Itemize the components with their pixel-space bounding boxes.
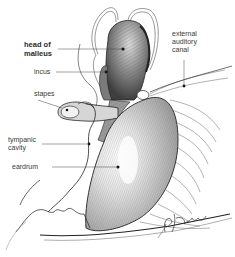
middle-ear-illustration (0, 0, 235, 257)
joint-nodule (137, 91, 149, 100)
label-incus: incus (34, 68, 50, 76)
malleus (106, 21, 149, 100)
tympanic-cavity-outline (78, 44, 97, 106)
label-eardrum: eardrum (12, 163, 38, 171)
label-external-auditory-canal: external auditory canal (172, 30, 197, 54)
middle-ear-diagram: head of malleus incus stapes tympanic ca… (0, 0, 235, 257)
label-tympanic-cavity: tympanic cavity (8, 136, 36, 152)
label-stapes: stapes (34, 90, 55, 98)
label-head-of-malleus: head of malleus (24, 40, 52, 58)
artist-signature (164, 214, 206, 232)
